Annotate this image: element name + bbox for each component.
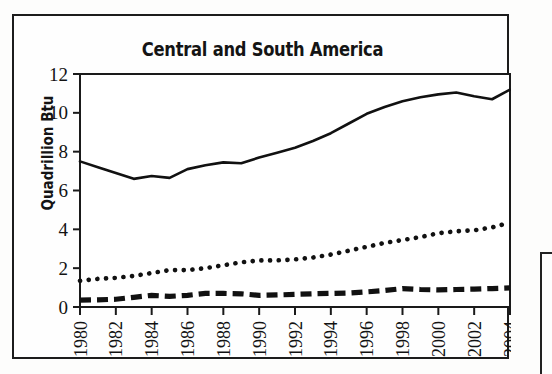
y-tick-label: 4 [59,219,69,240]
line-chart-plot: 024681012 198019821984198619881990199219… [14,16,511,361]
y-tick-label: 2 [59,258,69,279]
adjacent-figure-edge [540,252,552,374]
y-tick-label: 12 [49,64,68,85]
y-tick-label: 10 [49,102,68,123]
x-tick-label: 1990 [250,321,270,357]
figure-frame: Central and South America Quadrillion Bt… [12,14,509,359]
y-axis-ticks [73,74,80,307]
y-tick-label: 0 [59,297,69,318]
x-tick-label: 2002 [465,321,485,357]
x-tick-label: 1996 [357,321,377,357]
x-tick-label: 1982 [106,321,126,357]
y-tick-label: 6 [59,180,69,201]
y-axis-tick-labels: 024681012 [49,64,69,318]
scanned-page-background: Central and South America Quadrillion Bt… [0,0,552,374]
x-tick-label: 2004 [501,321,512,357]
plot-area-rect [80,74,510,307]
x-tick-label: 1980 [71,321,91,357]
x-axis-ticks [80,307,510,315]
x-tick-label: 1986 [178,321,198,357]
plot-area-frame [80,74,510,307]
x-tick-label: 1998 [393,321,413,357]
x-tick-label: 1994 [321,321,341,357]
x-tick-label: 1992 [286,321,306,357]
y-tick-label: 8 [59,141,69,162]
x-tick-label: 1984 [142,321,162,357]
x-axis-tick-labels: 1980198219841986198819901992199419961998… [71,321,512,357]
x-tick-label: 2000 [429,321,449,357]
x-tick-label: 1988 [214,321,234,357]
